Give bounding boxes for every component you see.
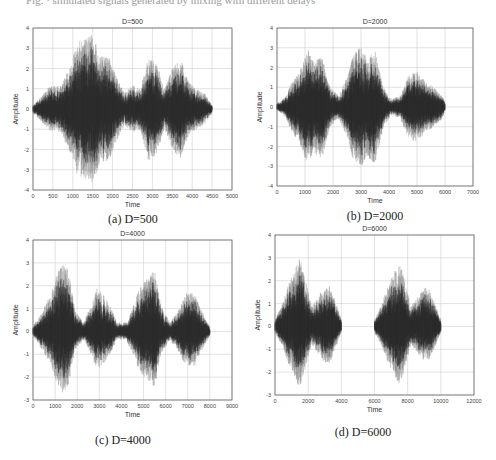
svg-text:1000: 1000 — [299, 189, 311, 195]
svg-text:0: 0 — [268, 323, 271, 329]
chart-panel-a: D=50005001000150020002500300035004000450… — [0, 10, 248, 205]
svg-text:8000: 8000 — [204, 403, 216, 409]
svg-text:6000: 6000 — [160, 403, 172, 409]
svg-text:1500: 1500 — [87, 193, 99, 199]
svg-text:-3: -3 — [266, 392, 271, 398]
svg-text:1: 1 — [270, 84, 273, 90]
svg-text:0: 0 — [273, 398, 276, 404]
svg-text:9000: 9000 — [226, 403, 238, 409]
svg-text:2000: 2000 — [106, 193, 118, 199]
svg-text:-1: -1 — [268, 124, 273, 130]
svg-text:2000: 2000 — [71, 403, 83, 409]
y-tick-labels: -4-3-2-101234 — [24, 25, 29, 193]
svg-text:10000: 10000 — [433, 398, 448, 404]
svg-text:2: 2 — [26, 283, 29, 289]
svg-text:1: 1 — [268, 301, 271, 307]
svg-text:3000: 3000 — [146, 193, 158, 199]
svg-text:-4: -4 — [24, 187, 29, 193]
svg-text:12000: 12000 — [466, 398, 481, 404]
svg-text:4: 4 — [26, 25, 29, 31]
svg-text:7000: 7000 — [182, 403, 194, 409]
svg-text:-1: -1 — [24, 126, 29, 132]
svg-text:4000: 4000 — [115, 403, 127, 409]
x-tick-labels: 020004000600080001000012000 — [273, 398, 481, 404]
chart-b: D=200001000200030004000500060007000-4-3-… — [248, 10, 496, 205]
chart-title: D=2000 — [363, 18, 388, 25]
svg-text:0: 0 — [270, 104, 273, 110]
svg-text:4: 4 — [268, 232, 271, 238]
svg-text:3: 3 — [268, 255, 271, 261]
svg-text:-1: -1 — [266, 346, 271, 352]
svg-text:5000: 5000 — [137, 403, 149, 409]
svg-text:500: 500 — [48, 193, 57, 199]
svg-text:0: 0 — [275, 189, 278, 195]
svg-text:2: 2 — [268, 278, 271, 284]
svg-text:-2: -2 — [268, 144, 273, 150]
caption-d: (d) D=6000 — [335, 425, 391, 440]
svg-text:-3: -3 — [268, 163, 273, 169]
svg-text:4000: 4000 — [383, 189, 395, 195]
svg-text:6000: 6000 — [368, 398, 380, 404]
x-axis-label: Time — [367, 197, 382, 204]
svg-text:0: 0 — [26, 106, 29, 112]
svg-text:3500: 3500 — [166, 193, 178, 199]
y-tick-labels: -4-3-2-101234 — [268, 25, 273, 189]
chart-c: D=40000100020003000400050006000700080009… — [0, 222, 248, 417]
chart-d: D=6000020004000600080001000012000-3-2-10… — [248, 219, 496, 414]
svg-text:2000: 2000 — [302, 398, 314, 404]
svg-text:1000: 1000 — [67, 193, 79, 199]
svg-text:2500: 2500 — [126, 193, 138, 199]
chart-title: D=4000 — [120, 230, 145, 237]
x-axis-label: Time — [367, 406, 382, 413]
svg-text:2: 2 — [270, 65, 273, 71]
x-axis-label: Time — [125, 411, 140, 418]
chart-panel-c: D=40000100020003000400050006000700080009… — [0, 222, 248, 417]
svg-text:2000: 2000 — [327, 189, 339, 195]
svg-text:-3: -3 — [24, 167, 29, 173]
caption-c: (c) D=4000 — [95, 433, 151, 448]
y-axis-label: Amplitude — [12, 93, 20, 124]
svg-text:-2: -2 — [266, 369, 271, 375]
chart-title: D=500 — [122, 18, 143, 25]
svg-text:1: 1 — [26, 306, 29, 312]
svg-text:4000: 4000 — [335, 398, 347, 404]
chart-title: D=6000 — [362, 225, 387, 232]
svg-text:-4: -4 — [268, 183, 273, 189]
svg-text:6000: 6000 — [439, 189, 451, 195]
svg-text:8000: 8000 — [402, 398, 414, 404]
svg-text:3: 3 — [26, 260, 29, 266]
svg-text:-2: -2 — [24, 374, 29, 380]
svg-text:3: 3 — [270, 45, 273, 51]
svg-text:0: 0 — [31, 403, 34, 409]
svg-text:3000: 3000 — [93, 403, 105, 409]
svg-text:7000: 7000 — [467, 189, 479, 195]
svg-text:-2: -2 — [24, 147, 29, 153]
svg-text:3000: 3000 — [355, 189, 367, 195]
svg-text:4500: 4500 — [206, 193, 218, 199]
svg-text:4000: 4000 — [186, 193, 198, 199]
x-axis-label: Time — [125, 201, 140, 208]
x-tick-labels: 01000200030004000500060007000 — [275, 189, 479, 195]
y-tick-labels: -3-2-101234 — [24, 237, 29, 403]
svg-text:0: 0 — [26, 328, 29, 334]
x-tick-labels: 0500100015002000250030003500400045005000 — [31, 193, 238, 199]
figure-caption-cutoff: Fig. · simulated signals generated by mi… — [26, 0, 315, 6]
chart-panel-b: D=200001000200030004000500060007000-4-3-… — [248, 10, 496, 205]
chart-panel-d: D=6000020004000600080001000012000-3-2-10… — [248, 219, 496, 414]
y-axis-label: Amplitude — [256, 91, 264, 122]
svg-text:5000: 5000 — [226, 193, 238, 199]
svg-text:0: 0 — [31, 193, 34, 199]
svg-text:1: 1 — [26, 86, 29, 92]
svg-text:1000: 1000 — [49, 403, 61, 409]
x-tick-labels: 0100020003000400050006000700080009000 — [31, 403, 238, 409]
svg-text:4: 4 — [270, 25, 273, 31]
svg-text:2: 2 — [26, 66, 29, 72]
svg-text:4: 4 — [26, 237, 29, 243]
y-axis-label: Amplitude — [12, 304, 20, 335]
svg-text:-1: -1 — [24, 351, 29, 357]
svg-text:3: 3 — [26, 45, 29, 51]
y-tick-labels: -3-2-101234 — [266, 232, 271, 398]
svg-text:5000: 5000 — [411, 189, 423, 195]
y-axis-label: Amplitude — [254, 299, 262, 330]
chart-a: D=50005001000150020002500300035004000450… — [0, 10, 248, 205]
